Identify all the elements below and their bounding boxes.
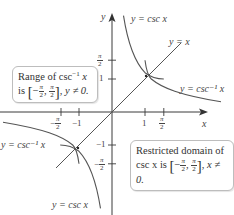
- domain-line-2: csc x is [−π2, π2], x ≠ 0.: [136, 158, 228, 187]
- csc-curve-positive: [124, 16, 164, 79]
- label-arccsc-right: y = csc⁻¹ x: [180, 83, 224, 94]
- label-csc-bottom: y = csc x: [52, 199, 88, 210]
- y-tick-neg-pi-over-2: −π2: [94, 157, 105, 172]
- label-identity: y = x: [169, 36, 190, 47]
- y-axis-label: y: [101, 11, 105, 22]
- y-tick-1: 1: [99, 74, 104, 83]
- x-tick-pi-over-2: π2: [159, 116, 165, 131]
- domain-annotation-box: Restricted domain of csc x is [−π2, π2],…: [130, 140, 234, 191]
- intersection-point-q1: [145, 75, 147, 77]
- y-tick-neg-1: −1: [96, 140, 106, 149]
- range-line-1: Range of csc−1 x: [18, 70, 92, 84]
- x-tick-neg-pi-over-2: −π2: [50, 116, 61, 131]
- label-csc-top: y = csc x: [131, 13, 167, 24]
- range-annotation-box: Range of csc−1 x is [−π2, π2], y ≠ 0.: [12, 66, 98, 103]
- label-arccsc-left: y = csc⁻¹ x: [1, 139, 45, 150]
- y-tick-pi-over-2: π2: [97, 53, 103, 68]
- intersection-point-q3: [77, 147, 79, 149]
- x-tick-neg-1: −1: [72, 119, 82, 128]
- range-line-2: is [−π2, π2], y ≠ 0.: [18, 84, 92, 99]
- x-tick-1: 1: [142, 119, 147, 128]
- x-axis-label: x: [202, 118, 206, 129]
- domain-line-1: Restricted domain of: [136, 144, 228, 158]
- arccsc-curve-positive: [145, 60, 221, 102]
